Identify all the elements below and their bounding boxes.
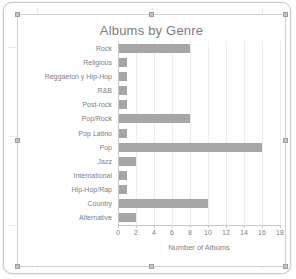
axis-tick	[226, 225, 227, 228]
gridline	[280, 41, 281, 225]
axis-tick-label: 0	[116, 229, 120, 236]
resize-handle-top-center[interactable]	[149, 12, 154, 17]
bar-row	[118, 211, 280, 225]
resize-handle-bottom-right[interactable]	[283, 264, 288, 269]
bar-row	[118, 197, 280, 211]
bar[interactable]	[118, 185, 127, 194]
axis-tick	[280, 225, 281, 228]
bar-row	[118, 41, 280, 55]
bar-row	[118, 126, 280, 140]
resize-handle-top-right[interactable]	[283, 12, 288, 17]
axis-tick-label: 4	[152, 229, 156, 236]
axis-tick	[172, 225, 173, 228]
category-axis-label: International	[18, 168, 117, 182]
chart-title: Albums by Genre	[18, 23, 285, 38]
bar[interactable]	[118, 129, 127, 138]
bar[interactable]	[118, 44, 190, 53]
axis-tick-label: 6	[170, 229, 174, 236]
category-axis-label: Country	[18, 197, 117, 211]
category-axis-label: Religious	[18, 55, 117, 69]
bar-row	[118, 140, 280, 154]
axis-tick	[154, 225, 155, 228]
bar[interactable]	[118, 100, 127, 109]
bar-row	[118, 168, 280, 182]
axis-tick-label: 18	[276, 229, 284, 236]
bar[interactable]	[118, 171, 127, 180]
category-axis-label: Rock	[18, 41, 117, 55]
resize-handle-top-left[interactable]	[15, 12, 20, 17]
category-axis-line	[118, 41, 119, 225]
category-axis-label: Alternative	[18, 211, 117, 225]
category-axis-label: Pop Latino	[18, 126, 117, 140]
bar[interactable]	[118, 143, 262, 152]
bar-row	[118, 112, 280, 126]
spreadsheet-canvas: Albums by Genre RockReligiousReggaeton y…	[3, 2, 291, 274]
axis-tick	[262, 225, 263, 228]
bar-row	[118, 83, 280, 97]
bar-series	[118, 41, 280, 225]
bar[interactable]	[118, 72, 127, 81]
bar-row	[118, 98, 280, 112]
resize-handle-bottom-left[interactable]	[15, 264, 20, 269]
axis-tick	[244, 225, 245, 228]
category-axis-label: R&B	[18, 83, 117, 97]
value-axis-title: Number of Albums	[118, 243, 280, 252]
category-axis-label: Reggaeton y Hip-Hop	[18, 69, 117, 83]
axis-tick-label: 2	[134, 229, 138, 236]
category-axis-label: Post-rock	[18, 98, 117, 112]
axis-tick-label: 12	[222, 229, 230, 236]
chart-object[interactable]: Albums by Genre RockReligiousReggaeton y…	[17, 14, 286, 267]
category-axis-labels: RockReligiousReggaeton y Hip-HopR&BPost-…	[18, 41, 117, 225]
category-axis-label: Pop/Rock	[18, 112, 117, 126]
bar-row	[118, 69, 280, 83]
bar-row	[118, 183, 280, 197]
category-axis-label: Pop	[18, 140, 117, 154]
bar-row	[118, 154, 280, 168]
bar[interactable]	[118, 157, 136, 166]
bar[interactable]	[118, 86, 127, 95]
bar[interactable]	[118, 114, 190, 123]
axis-tick-label: 10	[204, 229, 212, 236]
bar[interactable]	[118, 199, 208, 208]
axis-tick-label: 14	[240, 229, 248, 236]
category-axis-label: Hip-Hop/Rap	[18, 183, 117, 197]
axis-tick	[208, 225, 209, 228]
bar-row	[118, 55, 280, 69]
axis-tick	[190, 225, 191, 228]
resize-handle-bottom-center[interactable]	[149, 264, 154, 269]
bar[interactable]	[118, 58, 127, 67]
category-axis-label: Jazz	[18, 154, 117, 168]
axis-tick-label: 8	[188, 229, 192, 236]
bar[interactable]	[118, 213, 136, 222]
axis-tick	[118, 225, 119, 228]
axis-tick-label: 16	[258, 229, 266, 236]
axis-tick	[136, 225, 137, 228]
value-axis-tick-labels: 024681012141618	[118, 229, 280, 241]
plot-area	[118, 41, 280, 225]
plot-wrapper: RockReligiousReggaeton y Hip-HopR&BPost-…	[18, 41, 287, 241]
